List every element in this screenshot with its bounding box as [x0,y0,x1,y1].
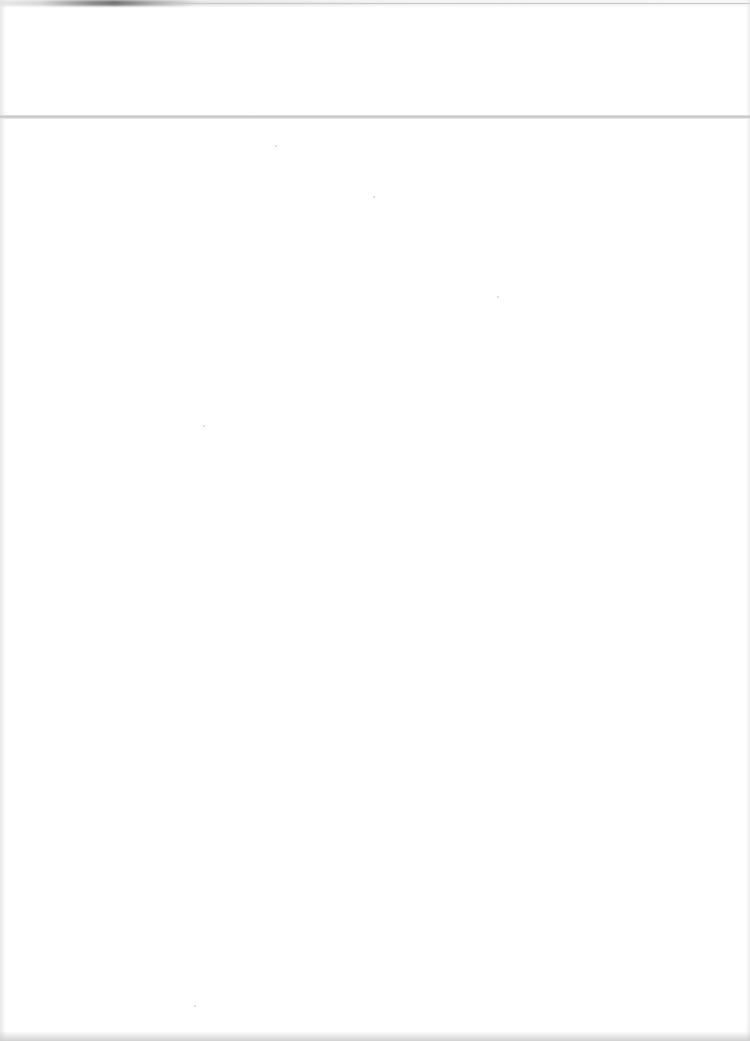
scan-top-edge-line [170,3,750,4]
scan-right-edge-shadow [746,0,750,1041]
scan-left-edge-shadow [0,0,6,1041]
paper-speck [194,1005,196,1007]
blank-document-page [0,0,750,1041]
scan-bottom-edge-shadow [0,1031,750,1041]
paper-speck [497,296,499,298]
paper-speck [373,196,375,198]
paper-speck [203,425,205,427]
paper-speck [275,145,277,147]
paper-fold-line [0,115,750,119]
